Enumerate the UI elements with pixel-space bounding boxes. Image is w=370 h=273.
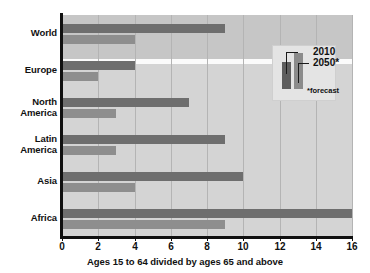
- gridline-8: [207, 15, 208, 237]
- x-tick-label-2: 2: [95, 241, 101, 252]
- x-tick-label-12: 12: [274, 241, 285, 252]
- bar-chart: 0246810121416 WorldEuropeNorth AmericaLa…: [0, 0, 370, 273]
- legend: 2010 2050* *forecast: [272, 45, 336, 101]
- legend-leader-line-2010-vertical: [286, 52, 287, 74]
- bar-world-2010: [62, 24, 225, 33]
- bar-north-america-2010: [62, 98, 189, 107]
- bar-world-2050: [62, 35, 135, 44]
- bar-europe-2010: [62, 61, 135, 70]
- gridline-10: [243, 15, 244, 237]
- category-label-asia: Asia: [37, 176, 57, 187]
- gridline-4: [135, 15, 136, 237]
- legend-label-2050: 2050*: [313, 57, 339, 68]
- x-tick-label-0: 0: [59, 241, 65, 252]
- category-label-north-america: North America: [20, 97, 57, 118]
- x-tick-label-8: 8: [204, 241, 210, 252]
- bar-asia-2050: [62, 183, 135, 192]
- gridline-6: [171, 15, 172, 237]
- x-tick-label-14: 14: [310, 241, 321, 252]
- category-label-latin-america: Latin America: [20, 134, 57, 155]
- bar-north-america-2050: [62, 109, 116, 118]
- legend-leader-line-2010-horizontal: [286, 52, 298, 53]
- y-axis-line: [60, 13, 63, 239]
- x-tick-label-6: 6: [168, 241, 174, 252]
- gridline-16: [352, 15, 353, 237]
- category-label-africa: Africa: [31, 213, 57, 224]
- bar-africa-2010: [62, 209, 352, 218]
- bar-latin-america-2010: [62, 135, 225, 144]
- category-label-europe: Europe: [25, 65, 57, 76]
- category-label-world: World: [31, 28, 57, 39]
- bar-latin-america-2050: [62, 146, 116, 155]
- bar-asia-2010: [62, 172, 243, 181]
- bar-africa-2050: [62, 220, 225, 229]
- legend-leader-line-2050-vertical: [298, 63, 299, 83]
- gridline-2: [98, 15, 99, 237]
- x-tick-label-10: 10: [237, 241, 248, 252]
- x-tick-label-4: 4: [132, 241, 138, 252]
- legend-leader-line-2050-horizontal: [298, 63, 309, 64]
- legend-label-2010: 2010: [313, 46, 335, 57]
- x-axis-title: Ages 15 to 64 divided by ages 65 and abo…: [0, 256, 370, 267]
- legend-forecast-note: *forecast: [307, 86, 339, 95]
- x-tick-label-16: 16: [346, 241, 357, 252]
- bar-europe-2050: [62, 72, 98, 81]
